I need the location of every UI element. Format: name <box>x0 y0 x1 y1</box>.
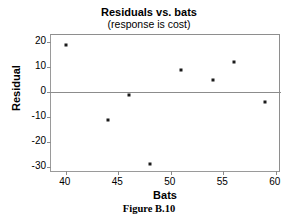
data-point <box>180 68 183 71</box>
y-axis-tick-labels: 20100-10-20-30 <box>20 34 46 172</box>
x-tick-label: 40 <box>45 176 85 187</box>
y-axis-title: Residual <box>10 48 22 128</box>
y-tick-label: -30 <box>22 161 46 171</box>
data-point <box>232 61 235 64</box>
x-tick-mark <box>66 171 67 175</box>
x-axis-tick-labels: 4045505560 <box>50 176 280 190</box>
x-tick-mark <box>223 171 224 175</box>
data-point <box>264 101 267 104</box>
zero-reference-line <box>51 92 281 93</box>
y-tick-mark <box>47 142 51 143</box>
chart-title: Residuals vs. bats <box>0 6 298 18</box>
y-tick-mark <box>47 117 51 118</box>
data-point <box>106 118 109 121</box>
y-tick-label: -10 <box>22 111 46 121</box>
data-point <box>64 43 67 46</box>
x-tick-label: 50 <box>150 176 190 187</box>
x-tick-mark <box>171 171 172 175</box>
data-point <box>211 78 214 81</box>
y-tick-mark <box>47 42 51 43</box>
y-tick-label: 10 <box>22 61 46 71</box>
plot-area <box>50 34 280 172</box>
chart-subtitle: (response is cost) <box>0 18 298 30</box>
y-tick-mark <box>47 167 51 168</box>
figure-container: Residuals vs. bats (response is cost) 20… <box>0 0 298 219</box>
x-tick-label: 45 <box>97 176 137 187</box>
x-tick-label: 60 <box>255 176 295 187</box>
x-tick-mark <box>118 171 119 175</box>
y-tick-mark <box>47 92 51 93</box>
data-point <box>148 163 151 166</box>
data-point <box>127 93 130 96</box>
figure-caption: Figure B.10 <box>0 203 298 215</box>
y-tick-label: 0 <box>22 86 46 96</box>
y-tick-label: 20 <box>22 36 46 46</box>
y-tick-mark <box>47 67 51 68</box>
x-tick-mark <box>276 171 277 175</box>
y-tick-label: -20 <box>22 136 46 146</box>
x-tick-label: 55 <box>202 176 242 187</box>
x-axis-title: Bats <box>50 189 280 201</box>
